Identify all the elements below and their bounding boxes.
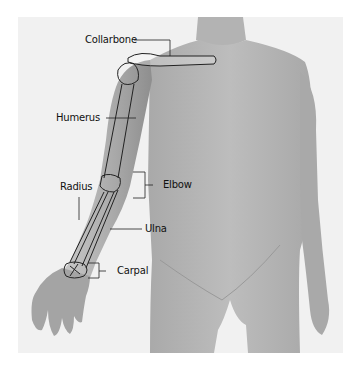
torso (148, 40, 312, 353)
label-ulna: Ulna (145, 223, 167, 234)
label-radius: Radius (60, 181, 92, 192)
right-arm (300, 72, 329, 335)
left-arm (62, 60, 152, 278)
label-elbow: Elbow (163, 179, 192, 190)
label-humerus: Humerus (56, 112, 100, 123)
label-carpal: Carpal (117, 265, 148, 276)
hand (32, 268, 91, 336)
label-collarbone: Collarbone (85, 34, 137, 45)
